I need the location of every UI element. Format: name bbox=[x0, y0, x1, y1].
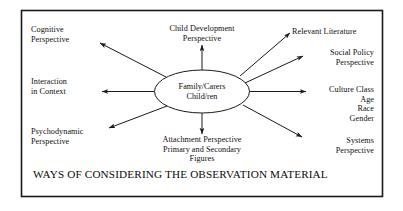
center-node-label: Family/Carers Child/ren bbox=[155, 82, 249, 102]
node-culture-class-age-race-gender: Culture Class Age Race Gender bbox=[303, 85, 374, 123]
node-child-development-perspective: Child Development Perspective bbox=[134, 24, 270, 43]
figure-caption: WAYS OF CONSIDERING THE OBSERVATION MATE… bbox=[33, 168, 328, 180]
node-relevant-literature: Relevant Literature bbox=[292, 27, 382, 37]
node-psychodynamic-perspective: Psychodynamic Perspective bbox=[31, 127, 117, 146]
observation-material-diagram: Family/Carers Child/ren Cognitive Perspe… bbox=[0, 0, 403, 211]
node-systems-perspective: Systems Perspective bbox=[302, 136, 374, 155]
node-cognitive-perspective: Cognitive Perspective bbox=[31, 25, 109, 44]
node-interaction-in-context: Interaction in Context bbox=[31, 77, 105, 96]
node-social-policy-perspective: Social Policy Perspective bbox=[298, 48, 374, 67]
node-attachment-perspective: Attachment Perspective Primary and Secon… bbox=[131, 135, 273, 164]
